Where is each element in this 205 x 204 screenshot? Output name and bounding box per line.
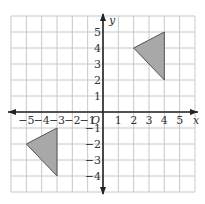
x-tick-label: 5 — [176, 114, 183, 127]
y-tick-label: 4 — [94, 42, 101, 55]
y-tick-label: 5 — [94, 26, 101, 39]
y-tick-label: 1 — [94, 90, 101, 103]
x-tick-label: −4 — [34, 114, 50, 127]
y-tick-label: 3 — [94, 58, 101, 71]
y-tick-label: −2 — [85, 138, 101, 151]
y-axis-arrow-down-icon — [100, 187, 106, 195]
x-tick-label: −5 — [18, 114, 34, 127]
x-tick-label: −2 — [64, 114, 80, 127]
x-tick-label: −3 — [49, 114, 65, 127]
x-axis-label: x — [193, 114, 200, 127]
y-axis-arrow-up-icon — [100, 13, 106, 21]
y-axis-label: y — [108, 14, 116, 27]
x-tick-label: 1 — [115, 114, 122, 127]
x-tick-label: 3 — [145, 114, 152, 127]
y-tick-label: −3 — [85, 154, 101, 167]
y-tick-label: 2 — [94, 74, 101, 87]
x-tick-label: 4 — [161, 114, 168, 127]
origin-label: O — [91, 114, 100, 127]
y-tick-label: −4 — [85, 170, 101, 183]
coordinate-plane: −5−4−3−2−11234554321−1−2−3−4Oxy — [0, 0, 205, 204]
x-axis-arrow-left-icon — [8, 109, 16, 115]
x-tick-label: 2 — [130, 114, 137, 127]
